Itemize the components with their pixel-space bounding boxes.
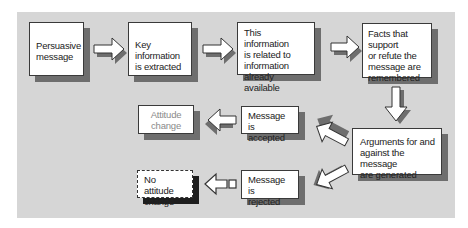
- arrow-down-left-icon: [308, 158, 351, 196]
- arrow-left-outline-icon: [205, 174, 227, 194]
- arrow-right-icon: [203, 38, 236, 64]
- arrow-down-icon: [385, 87, 411, 124]
- arrow-right-icon: [331, 36, 362, 62]
- arrow-right-icon: [94, 38, 127, 64]
- arrow-up-left-icon: [309, 109, 355, 152]
- square-icon: [229, 180, 236, 188]
- arrows-layer: [0, 0, 468, 228]
- arrow-left-icon: [205, 109, 236, 135]
